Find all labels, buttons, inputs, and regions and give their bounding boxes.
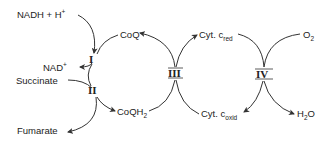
nad-label: NAD+ bbox=[43, 61, 67, 73]
arrow-cytc-oxid-to-complex-iii bbox=[176, 80, 199, 114]
complex-iii-label: III bbox=[168, 67, 181, 79]
arrow-cytc-red-to-complex-iv bbox=[238, 34, 264, 67]
cytc-oxid-label: Cyt. coxid bbox=[201, 108, 238, 121]
arrow-nadh-to-complex-i bbox=[78, 15, 95, 53]
electron-transport-diagram: NADH + H+ NAD+ Succinate Fumarate CoQ Co… bbox=[0, 0, 330, 143]
complex-iv-label: IV bbox=[256, 68, 268, 80]
arrow-coqh2-to-complex-iii bbox=[149, 80, 175, 111]
arrow-coq-to-complex-i bbox=[97, 35, 118, 54]
arrow-complex-iv-to-cytc-oxid bbox=[244, 81, 263, 112]
arrow-complex-ii-to-fumarate bbox=[68, 97, 96, 132]
arrow-complex-ii-to-coqh2 bbox=[97, 97, 115, 111]
arrow-complex-iv-to-h2o bbox=[264, 81, 294, 114]
h2o-label: H2O bbox=[297, 108, 315, 121]
coq-label: CoQ bbox=[120, 29, 140, 40]
arrow-o2-to-complex-iv bbox=[264, 34, 300, 67]
fumarate-label: Fumarate bbox=[17, 125, 58, 136]
arrow-complex-iii-to-coq bbox=[140, 33, 175, 67]
link-complex-i-complex-ii bbox=[88, 64, 92, 86]
succinate-label: Succinate bbox=[16, 75, 58, 86]
complex-i-label: I bbox=[89, 53, 93, 65]
coqh2-label: CoQH2 bbox=[117, 106, 147, 119]
o2-label: O2 bbox=[303, 29, 314, 42]
nadh-label: NADH + H+ bbox=[17, 8, 66, 20]
arrow-complex-iii-to-cytc-red bbox=[176, 35, 197, 67]
cytc-red-label: Cyt. cred bbox=[199, 29, 233, 42]
